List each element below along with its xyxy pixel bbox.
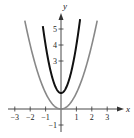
x-tick-label: −3 [11,113,20,122]
y-tick-label: 5 [53,25,57,34]
x-tick-label: 3 [105,113,109,122]
x-tick-label: −2 [26,113,35,122]
y-tick-label: 3 [53,57,57,66]
y-tick-label: −1 [48,121,57,130]
x-tick-label: 2 [90,113,94,122]
tick-labels: −3−2−1123−1345xy [11,1,130,130]
curve-black [43,19,80,93]
y-axis-label: y [62,1,67,11]
x-axis-arrow-icon [117,107,124,112]
x-axis-label: x [125,104,130,114]
y-axis-arrow-icon [59,13,64,20]
graph: −3−2−1123−1345xy [0,0,134,138]
x-tick-label: 1 [74,113,78,122]
y-tick-label: 4 [53,41,57,50]
